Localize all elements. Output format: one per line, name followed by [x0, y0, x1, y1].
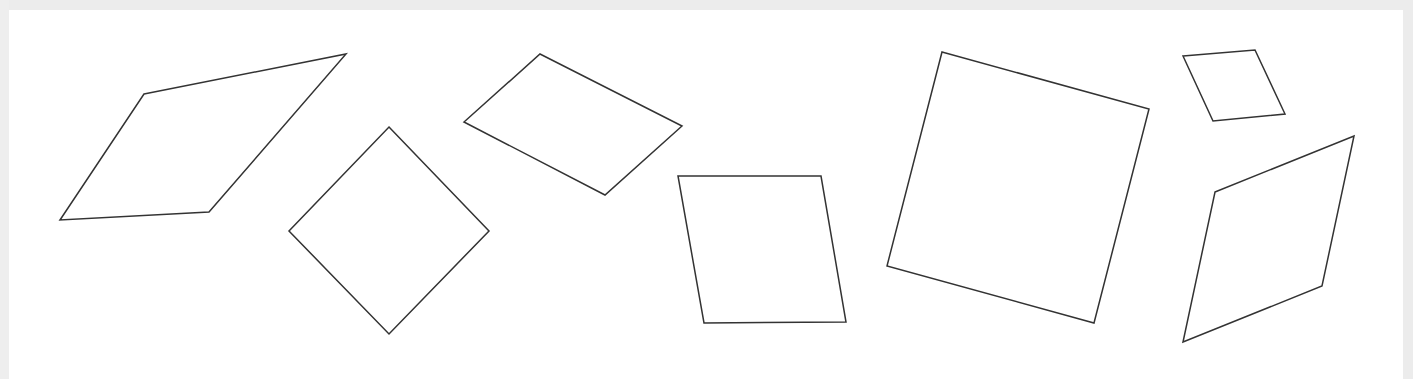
- worksheet-page: [0, 0, 1413, 379]
- parallelogram-6: [1183, 50, 1285, 121]
- parallelogram-3: [464, 54, 682, 195]
- square-2: [289, 127, 489, 334]
- square-5: [887, 52, 1149, 323]
- parallelogram-4: [678, 176, 846, 323]
- parallelogram-7: [1183, 136, 1354, 342]
- parallelogram-1: [60, 54, 346, 220]
- shapes-canvas: [0, 0, 1413, 379]
